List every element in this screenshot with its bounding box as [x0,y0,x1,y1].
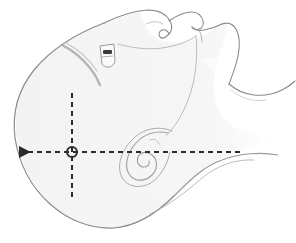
head-group [14,10,296,228]
figure-canvas [0,0,296,243]
ear-canal-mark [100,44,115,67]
nose-profile [169,12,203,29]
head-profile-figure [0,0,296,243]
eyebrow-mark [146,22,163,24]
cranium-outline [16,12,284,228]
